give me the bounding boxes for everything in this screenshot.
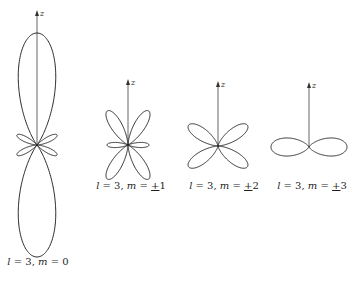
label-l3-m1: l = 3, m = +1 bbox=[96, 180, 166, 191]
panel-m3: z bbox=[271, 81, 347, 156]
z-arrow-icon-m3 bbox=[307, 82, 311, 88]
label-m-value: 2 bbox=[252, 180, 258, 191]
z-arrow-icon-m1 bbox=[126, 79, 130, 85]
label-m-symbol: m bbox=[127, 180, 136, 191]
label-m-symbol: m bbox=[308, 180, 317, 191]
z-axis-label-m2: z bbox=[220, 80, 226, 89]
harmonics-diagram: z z z z bbox=[0, 0, 354, 282]
panel-m2: z bbox=[188, 80, 248, 168]
label-equals: = bbox=[229, 180, 244, 191]
label-l-value: = 3, bbox=[99, 180, 126, 191]
label-l-value: = 3, bbox=[280, 180, 307, 191]
label-l-value: = 3, bbox=[11, 256, 38, 267]
z-axis-label-m3: z bbox=[311, 81, 317, 90]
label-equals: = bbox=[317, 180, 332, 191]
label-m-value: 0 bbox=[62, 256, 68, 267]
label-m-symbol: m bbox=[38, 256, 47, 267]
label-l-value: = 3, bbox=[192, 180, 219, 191]
panel-m1: z bbox=[106, 78, 150, 179]
label-equals: = bbox=[48, 256, 63, 267]
label-l3-m0: l = 3, m = 0 bbox=[7, 256, 68, 267]
label-equals: = bbox=[136, 180, 151, 191]
z-arrow-icon-m0 bbox=[35, 10, 39, 16]
z-axis-label-m0: z bbox=[39, 9, 45, 18]
panel-m0: z bbox=[17, 9, 57, 257]
label-l3-m3: l = 3, m = +3 bbox=[277, 180, 347, 191]
z-arrow-icon-m2 bbox=[216, 81, 220, 87]
label-m-value: 3 bbox=[340, 180, 346, 191]
label-m-symbol: m bbox=[220, 180, 229, 191]
label-m-value: 1 bbox=[159, 180, 165, 191]
label-l3-m2: l = 3, m = +2 bbox=[189, 180, 259, 191]
z-axis-label-m1: z bbox=[130, 78, 136, 87]
